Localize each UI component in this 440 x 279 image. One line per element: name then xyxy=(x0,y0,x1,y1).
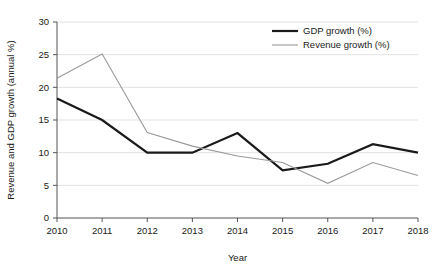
y-tick-label: 15 xyxy=(38,114,49,125)
x-tick-label: 2018 xyxy=(407,225,428,236)
y-tick-label: 25 xyxy=(38,49,49,60)
legend-label: Revenue growth (%) xyxy=(303,39,390,50)
x-tick-label: 2013 xyxy=(182,225,203,236)
x-tick-label: 2010 xyxy=(46,225,67,236)
chart-container: 051015202530 201020112012201320142015201… xyxy=(0,0,440,279)
x-tick-label: 2012 xyxy=(137,225,158,236)
x-tick-label: 2015 xyxy=(272,225,293,236)
y-tick-label: 10 xyxy=(38,147,49,158)
x-tick-label: 2014 xyxy=(227,225,248,236)
x-tick-label: 2016 xyxy=(317,225,338,236)
y-axis-label: Revenue and GDP growth (annual %) xyxy=(5,40,16,199)
x-tick-label: 2017 xyxy=(362,225,383,236)
line-chart: 051015202530 201020112012201320142015201… xyxy=(0,0,440,279)
legend-label: GDP growth (%) xyxy=(303,25,372,36)
y-tick-label: 30 xyxy=(38,16,49,27)
y-tick-label: 20 xyxy=(38,82,49,93)
x-tick-label: 2011 xyxy=(92,225,112,236)
y-tick-label: 5 xyxy=(44,180,49,191)
x-axis-label: Year xyxy=(228,252,247,263)
y-tick-label: 0 xyxy=(44,212,49,223)
